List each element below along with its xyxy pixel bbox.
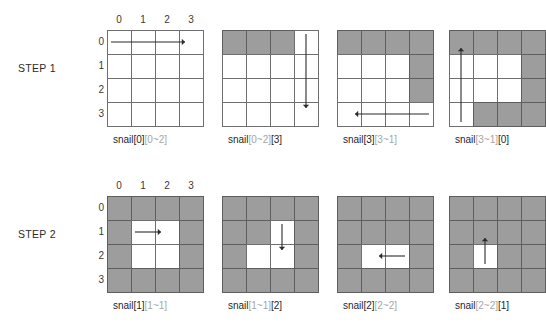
cell-r2-c3	[179, 78, 204, 103]
cell-r3-c1	[131, 268, 156, 293]
cell-r2-c3	[521, 244, 546, 269]
cell-r3-c2	[385, 102, 410, 127]
row-header-3: 3	[88, 268, 104, 292]
cell-r0-c2	[155, 30, 180, 55]
column-header-3: 3	[179, 180, 203, 191]
cell-r2-c2	[385, 78, 410, 103]
cell-r1-c0	[222, 220, 247, 245]
cell-r1-c1	[131, 220, 156, 245]
caption-part-0: snail[0]	[113, 134, 145, 145]
panel-caption: snail[0~2][3]	[199, 134, 311, 145]
cell-r2-c0	[337, 244, 362, 269]
cell-r0-c2	[385, 30, 410, 55]
column-header-3: 3	[179, 14, 203, 25]
cell-r0-c2	[497, 196, 522, 221]
cell-r3-c1	[473, 268, 498, 293]
cell-r2-c2	[385, 244, 410, 269]
cell-r0-c1	[246, 196, 271, 221]
cell-r1-c2	[497, 54, 522, 79]
matrix-grid	[449, 30, 545, 126]
cell-r0-c2	[270, 196, 295, 221]
caption-part-0: snail	[455, 300, 476, 311]
caption-part-1: [3~1]	[475, 134, 498, 145]
caption-part-1: [0~2]	[248, 134, 271, 145]
caption-part-0: snail	[228, 300, 249, 311]
cell-r2-c0	[222, 244, 247, 269]
cell-r1-c3	[179, 220, 204, 245]
cell-r3-c3	[521, 268, 546, 293]
cell-r1-c2	[385, 54, 410, 79]
cell-r2-c1	[361, 78, 386, 103]
cell-r1-c2	[497, 220, 522, 245]
cell-r0-c3	[294, 196, 319, 221]
cell-r1-c0	[449, 54, 474, 79]
matrix-grid	[107, 30, 203, 126]
row-header-1: 1	[88, 220, 104, 244]
cell-r3-c0	[222, 102, 247, 127]
cell-r0-c1	[131, 196, 156, 221]
cell-r3-c2	[270, 102, 295, 127]
cell-r0-c3	[179, 30, 204, 55]
cell-r1-c2	[155, 54, 180, 79]
cell-r3-c0	[449, 268, 474, 293]
panel-caption: snail[3~1][0]	[426, 134, 538, 145]
cell-r2-c0	[222, 78, 247, 103]
column-header-2: 2	[155, 14, 179, 25]
panel-caption: snail[1~1][2]	[199, 300, 311, 311]
matrix-grid	[337, 196, 433, 292]
cell-r3-c0	[222, 268, 247, 293]
cell-r3-c1	[361, 102, 386, 127]
column-header-1: 1	[131, 14, 155, 25]
cell-r0-c3	[294, 30, 319, 55]
caption-part-0: snail[1]	[113, 300, 145, 311]
cell-r2-c0	[449, 78, 474, 103]
row-header-strip: 0123	[88, 196, 104, 292]
cell-r0-c3	[409, 196, 434, 221]
cell-r2-c2	[270, 244, 295, 269]
cell-r1-c3	[521, 220, 546, 245]
cell-r1-c0	[337, 220, 362, 245]
cell-r2-c0	[107, 244, 132, 269]
column-header-strip: 0123	[107, 14, 203, 28]
row-header-2: 2	[88, 78, 104, 102]
cell-r1-c1	[473, 220, 498, 245]
cell-r1-c1	[361, 220, 386, 245]
cell-r2-c1	[246, 244, 271, 269]
cell-r1-c1	[246, 220, 271, 245]
cell-r2-c2	[497, 78, 522, 103]
cell-r3-c3	[179, 268, 204, 293]
cell-r3-c2	[270, 268, 295, 293]
cell-r0-c0	[449, 196, 474, 221]
matrix-grid	[337, 30, 433, 126]
cell-r3-c1	[361, 268, 386, 293]
cell-r3-c3	[179, 102, 204, 127]
cell-r1-c1	[473, 54, 498, 79]
column-header-strip: 0123	[107, 180, 203, 194]
cell-r2-c1	[131, 244, 156, 269]
column-header-0: 0	[107, 14, 131, 25]
cell-r3-c3	[294, 102, 319, 127]
column-header-2: 2	[155, 180, 179, 191]
cell-r3-c2	[497, 102, 522, 127]
cell-r2-c3	[294, 244, 319, 269]
caption-part-1: [3~1]	[375, 134, 398, 145]
cell-r0-c0	[107, 196, 132, 221]
cell-r2-c3	[179, 244, 204, 269]
cell-r1-c1	[246, 54, 271, 79]
row-header-0: 0	[88, 30, 104, 54]
cell-r0-c2	[270, 30, 295, 55]
cell-r3-c0	[107, 268, 132, 293]
step-row-1: STEP 101230123snail[0][0~2]snail[0~2][3]…	[0, 0, 542, 166]
cell-r3-c0	[337, 268, 362, 293]
step-label-2: STEP 2	[18, 228, 84, 240]
cell-r0-c1	[473, 30, 498, 55]
cell-r2-c3	[409, 78, 434, 103]
cell-r2-c0	[449, 244, 474, 269]
cell-r2-c3	[521, 78, 546, 103]
cell-r0-c3	[521, 196, 546, 221]
cell-r3-c0	[107, 102, 132, 127]
cell-r0-c2	[155, 196, 180, 221]
matrix-grid	[449, 196, 545, 292]
cell-r1-c3	[294, 54, 319, 79]
cell-r2-c2	[497, 244, 522, 269]
